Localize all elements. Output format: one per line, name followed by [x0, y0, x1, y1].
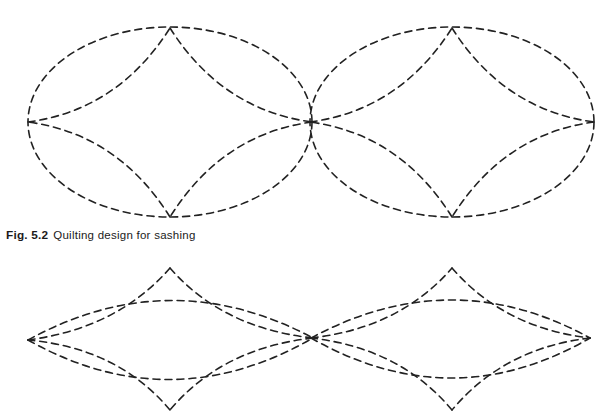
figure-caption: Fig. 5.2Quilting design for sashing — [6, 226, 426, 244]
outer-lens-upper-arc — [28, 300, 313, 340]
star-arc-top-left — [28, 28, 170, 122]
quilting-design-drawing — [0, 0, 615, 415]
motif-upper-right — [310, 27, 594, 217]
star-arc-bottom-right — [452, 122, 594, 217]
figure-caption-text: Quilting design for sashing — [53, 229, 195, 241]
outer-oval — [310, 27, 594, 217]
star-arc-top-right — [452, 28, 594, 122]
star-arc-bottom-right — [170, 122, 312, 217]
motif-lower-right — [311, 268, 590, 410]
star-arc-bottom-left — [28, 122, 170, 217]
outer-lens-upper-arc — [311, 300, 590, 338]
drawing-strokes — [28, 27, 594, 410]
outer-lens-lower-arc — [311, 338, 590, 378]
star-arc-top-right — [170, 28, 312, 122]
star-arc-top-left — [310, 28, 452, 122]
outer-oval — [28, 27, 312, 217]
motif-lower-left — [28, 268, 313, 410]
star-arc-bottom-left — [310, 122, 452, 217]
outer-lens-lower-arc — [28, 338, 313, 380]
motif-upper-left — [28, 27, 312, 217]
star-arc-top-right — [170, 268, 313, 338]
figure-page: Fig. 5.2Quilting design for sashing — [0, 0, 615, 415]
figure-caption-label: Fig. 5.2 — [6, 228, 48, 242]
